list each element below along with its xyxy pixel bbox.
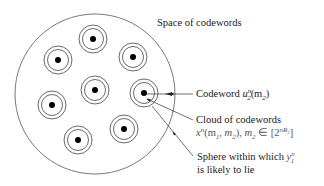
sphere-label: Sphere within which yn1 is likely to lie: [197, 150, 294, 176]
codeword-dot: [49, 102, 55, 108]
codeword-label: Codeword un2(m2): [196, 87, 269, 100]
codeword-cloud: [79, 25, 107, 53]
codeword-dot: [130, 54, 136, 60]
codeword-cloud: [44, 46, 72, 74]
sphere-line2: is likely to lie: [197, 163, 294, 176]
cloud-line1: Cloud of codewords: [196, 113, 293, 126]
codeword-dot: [141, 90, 147, 96]
codeword-cloud: [64, 126, 92, 154]
sphere-line1: Sphere within which yn1: [197, 150, 294, 163]
codeword-arrow-head: [166, 92, 172, 96]
codeword-dot: [55, 57, 61, 63]
space-title: Space of codewords: [157, 16, 242, 29]
codeword-cloud: [119, 43, 147, 71]
codeword-dot: [121, 126, 127, 132]
codeword-dot: [90, 36, 96, 42]
codeword-cloud: [110, 115, 138, 143]
codeword-dot: [75, 137, 81, 143]
codeword-text: Codeword: [196, 88, 240, 99]
codeword-symbol: un2(m2): [242, 88, 269, 99]
codeword-cloud: [81, 76, 109, 104]
codeword-dot: [92, 87, 98, 93]
codeword-cloud: [130, 79, 158, 107]
cloud-label: Cloud of codewords xn(m1, m2), m2 ∈ [2nR…: [196, 113, 293, 139]
cloud-line2: xn(m1, m2), m2 ∈ [2nR2]: [196, 126, 293, 139]
cloud-arrow: [147, 99, 193, 120]
cloud-group: [38, 25, 158, 154]
codeword-cloud: [38, 91, 66, 119]
